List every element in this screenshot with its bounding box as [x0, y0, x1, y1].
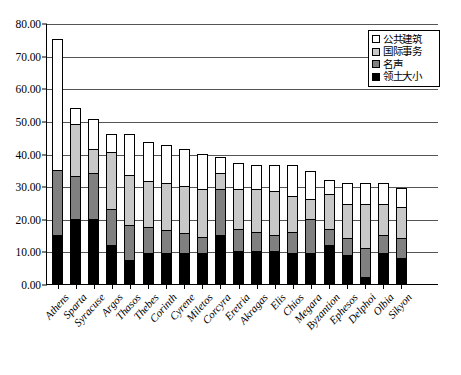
bar-segment [251, 232, 262, 252]
bar-segment [161, 253, 172, 284]
bar-segment [179, 233, 190, 253]
bar-segment [106, 209, 117, 245]
bar-segment [269, 251, 280, 284]
bar-segment [305, 219, 316, 253]
legend-item: 国际事务 [372, 46, 436, 59]
bar-segment [396, 207, 407, 238]
legend-item: 公共建筑 [372, 33, 436, 46]
bar-segment [143, 227, 154, 253]
bar-segment [215, 157, 226, 173]
bar-segment [215, 235, 226, 284]
legend-label: 名声 [383, 59, 402, 70]
bar-segment [324, 194, 335, 228]
bar-segment [324, 229, 335, 245]
legend-label: 领土大小 [383, 71, 422, 82]
y-tick-label: 10.00 [16, 246, 47, 258]
bar-segment [287, 165, 298, 196]
y-tick-label: 50.00 [16, 116, 47, 128]
x-tick-mark [112, 284, 113, 289]
x-tick-mark [166, 284, 167, 289]
x-tick-mark [239, 284, 240, 289]
bar-segment [106, 152, 117, 209]
stacked-bar-chart: 0.0010.0020.0030.0040.0050.0060.0070.008… [0, 0, 461, 375]
bar-segment [233, 251, 244, 284]
bar-column [179, 149, 190, 284]
x-tick-mark [202, 284, 203, 289]
bar-segment [179, 149, 190, 187]
bar-segment [324, 180, 335, 195]
bar-segment [360, 204, 371, 248]
bar-segment [161, 230, 172, 253]
bar-segment [88, 119, 99, 148]
x-tick-mark [220, 284, 221, 289]
x-tick-mark [347, 284, 348, 289]
bar-segment [124, 260, 135, 284]
bar-segment [396, 238, 407, 258]
y-tick-label: 70.00 [16, 51, 47, 63]
bar-segment [305, 253, 316, 284]
bar-segment [342, 204, 353, 238]
x-tick-mark [383, 284, 384, 289]
bar-segment [70, 108, 81, 124]
bar-segment [269, 165, 280, 191]
bar-segment [143, 142, 154, 181]
chart-legend: 公共建筑国际事务名声领土大小 [368, 30, 440, 87]
bar-segment [106, 134, 117, 152]
bar-segment [378, 235, 389, 253]
bar-column [360, 183, 371, 284]
bar-column [287, 165, 298, 284]
bar-segment [287, 253, 298, 284]
bar-segment [70, 176, 81, 218]
x-tick-mark [58, 284, 59, 289]
bar-segment [251, 251, 262, 284]
bar-segment [342, 255, 353, 284]
y-tick-label: 60.00 [16, 83, 47, 95]
y-tick-label: 30.00 [16, 181, 47, 193]
bar-segment [52, 39, 63, 170]
bar-segment [161, 183, 172, 230]
bar-segment [251, 189, 262, 231]
bar-segment [215, 189, 226, 235]
legend-swatch-icon [372, 73, 380, 81]
bar-segment [124, 175, 135, 226]
legend-swatch-icon [372, 35, 380, 43]
bar-segment [287, 232, 298, 253]
bar-column [324, 180, 335, 284]
legend-swatch-icon [372, 60, 380, 68]
bar-segment [233, 229, 244, 252]
bar-segment [324, 245, 335, 284]
bar-segment [360, 183, 371, 204]
x-tick-mark [293, 284, 294, 289]
bar-column [251, 165, 262, 284]
bar-column [233, 163, 244, 284]
bar-segment [52, 235, 63, 284]
bar-segment [161, 145, 172, 183]
bar-segment [88, 219, 99, 284]
bar-segment [143, 181, 154, 227]
bar-column [197, 154, 208, 284]
x-tick-mark [130, 284, 131, 289]
bar-segment [360, 248, 371, 277]
x-tick-mark [311, 284, 312, 289]
bar-segment [197, 237, 208, 253]
bar-segment [378, 183, 389, 204]
bar-segment [251, 165, 262, 189]
bar-column [52, 39, 63, 284]
x-tick-mark [94, 284, 95, 289]
bar-column [396, 188, 407, 284]
bar-segment [287, 196, 298, 232]
bar-segment [378, 204, 389, 235]
bar-segment [396, 188, 407, 208]
y-tick-label: 40.00 [16, 149, 47, 161]
y-tick-label: 20.00 [16, 214, 47, 226]
bar-segment [124, 134, 135, 175]
bar-column [215, 157, 226, 284]
bar-column [88, 119, 99, 284]
x-tick-mark [329, 284, 330, 289]
x-tick-mark [275, 284, 276, 289]
bar-segment [106, 245, 117, 284]
bar-column [161, 145, 172, 284]
bar-column [124, 134, 135, 284]
x-tick-mark [76, 284, 77, 289]
bar-segment [143, 253, 154, 284]
